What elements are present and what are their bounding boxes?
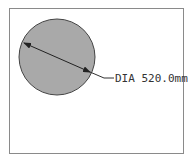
dimension-label: DIA 520.0mm (115, 72, 188, 85)
leader-line (90, 72, 114, 78)
drawing-canvas: DIA 520.0mm (0, 0, 194, 164)
